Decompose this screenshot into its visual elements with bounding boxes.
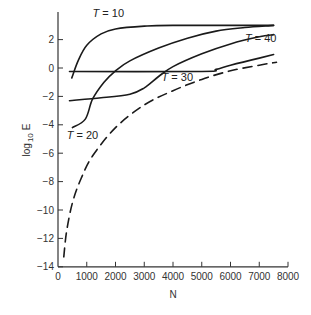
x-axis-title: N (169, 289, 176, 300)
curve-label-value: = 40 (252, 32, 277, 44)
y-axis-title-tail: E (21, 123, 32, 130)
y-tick-label: −10 (37, 205, 54, 216)
curve-label-value: = 10 (99, 7, 124, 19)
curve-label: T = 10 (93, 7, 125, 19)
y-tick-label: −4 (43, 119, 55, 130)
curves (64, 25, 277, 257)
x-tick-label: 6000 (219, 271, 242, 282)
x-tick-label: 3000 (133, 271, 156, 282)
y-tick-label: −2 (43, 91, 55, 102)
curve-bound (64, 62, 277, 257)
curve-label: T = 20 (67, 129, 99, 141)
curve-label-value: = 30 (168, 71, 193, 83)
curve-label: T = 40 (245, 32, 277, 44)
y-tick-label: 0 (48, 63, 54, 74)
y-tick-label: −14 (37, 261, 54, 272)
y-axis-title-main: log (21, 143, 32, 156)
y-tick-label: −12 (37, 233, 54, 244)
x-tick-label: 8000 (277, 271, 300, 282)
curve-label-value: = 20 (73, 129, 98, 141)
axes: 20−2−4−6−8−10−12−14010002000300040005000… (37, 12, 300, 282)
x-tick-label: 7000 (248, 271, 271, 282)
x-tick-label: 0 (55, 271, 61, 282)
y-axis-title-sub: 10 (26, 133, 35, 142)
y-tick-label: −6 (43, 148, 55, 159)
y-tick-label: 2 (48, 34, 54, 45)
y-axis-title: log10E (21, 123, 35, 156)
y-tick-label: −8 (43, 176, 55, 187)
x-tick-label: 5000 (191, 271, 214, 282)
curve-t-40 (70, 55, 274, 72)
x-tick-label: 2000 (104, 271, 127, 282)
line-chart: 20−2−4−6−8−10−12−14010002000300040005000… (0, 0, 311, 315)
x-tick-label: 1000 (76, 271, 99, 282)
curve-label: T = 30 (162, 71, 194, 83)
x-tick-label: 4000 (162, 271, 185, 282)
